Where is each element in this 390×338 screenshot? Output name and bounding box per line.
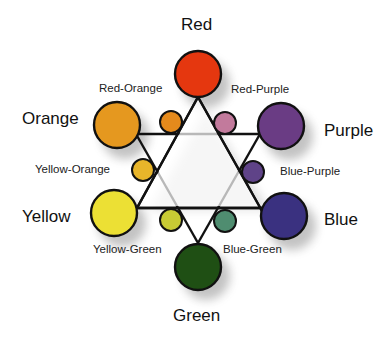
label-blue-purple: Blue-Purple	[280, 166, 340, 178]
label-yellow-orange: Yellow-Orange	[35, 164, 110, 176]
green-circle	[175, 244, 221, 290]
red-circle	[175, 51, 221, 97]
red-purple-circle	[214, 112, 236, 134]
center-fill	[140, 100, 258, 206]
label-green: Green	[173, 307, 220, 324]
yellow-orange-circle	[132, 159, 154, 181]
label-purple: Purple	[324, 122, 373, 139]
label-blue: Blue	[324, 211, 358, 228]
purple-circle	[258, 103, 304, 149]
label-red-purple: Red-Purple	[231, 84, 289, 96]
label-orange: Orange	[22, 110, 79, 127]
red-orange-circle	[160, 111, 182, 133]
orange-circle	[94, 102, 140, 148]
blue-circle	[261, 193, 307, 239]
label-blue-green: Blue-Green	[223, 244, 282, 256]
label-red-orange: Red-Orange	[99, 83, 162, 95]
label-yellow-green: Yellow-Green	[93, 244, 162, 256]
blue-purple-circle	[242, 161, 264, 183]
label-yellow: Yellow	[22, 208, 71, 225]
label-red: Red	[181, 16, 212, 33]
yellow-green-circle	[160, 209, 182, 231]
yellow-circle	[91, 190, 137, 236]
blue-green-circle	[214, 210, 236, 232]
